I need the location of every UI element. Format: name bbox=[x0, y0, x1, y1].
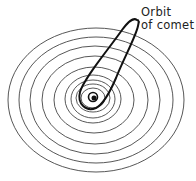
sun-core bbox=[92, 96, 97, 101]
comet-orbit-label: Orbit of comet bbox=[141, 6, 194, 32]
label-line-2: of comet bbox=[141, 19, 194, 32]
